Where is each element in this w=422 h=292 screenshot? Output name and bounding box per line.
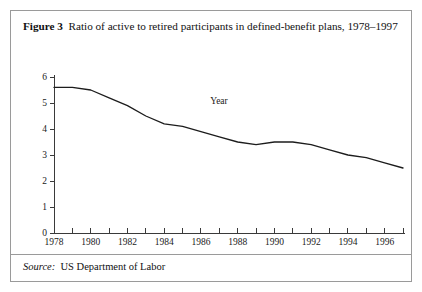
x-tick-label: 1990 bbox=[265, 237, 284, 246]
source-note: Source: US Department of Labor bbox=[23, 261, 165, 272]
y-tick-label: 5 bbox=[42, 98, 47, 108]
x-axis-title: Year bbox=[210, 96, 228, 106]
x-tick-label: 1980 bbox=[81, 237, 100, 246]
x-tick-label: 1982 bbox=[118, 237, 137, 246]
data-series-line bbox=[54, 87, 403, 168]
x-tick-label: 1988 bbox=[228, 237, 247, 246]
figure-caption-text: Ratio of active to retired participants … bbox=[68, 20, 397, 32]
figure-container: Figure 3 Ratio of active to retired part… bbox=[10, 10, 412, 282]
chart-plot-area: 0123456 19781980198219841986198819901992… bbox=[11, 56, 413, 246]
y-tick-label: 1 bbox=[42, 202, 47, 212]
y-tick-label: 6 bbox=[42, 72, 47, 82]
x-tick-label: 1978 bbox=[45, 237, 64, 246]
x-tick-label: 1984 bbox=[155, 237, 174, 246]
x-tick-label: 1996 bbox=[375, 237, 394, 246]
source-text: US Department of Labor bbox=[61, 261, 166, 272]
x-tick-label: 1992 bbox=[302, 237, 321, 246]
source-label: Source: bbox=[23, 261, 55, 272]
y-tick-label: 4 bbox=[42, 124, 47, 134]
y-tick-label: 2 bbox=[42, 176, 47, 186]
source-divider bbox=[11, 254, 411, 255]
y-axis: 0123456 bbox=[42, 72, 54, 238]
x-axis: 1978198019821984198619881990199219941996 bbox=[45, 228, 406, 246]
figure-caption: Figure 3 Ratio of active to retired part… bbox=[23, 19, 401, 34]
y-tick-label: 3 bbox=[42, 150, 47, 160]
x-tick-label: 1986 bbox=[191, 237, 210, 246]
figure-label: Figure 3 bbox=[23, 20, 63, 32]
x-tick-label: 1994 bbox=[338, 237, 357, 246]
line-chart: 0123456 19781980198219841986198819901992… bbox=[11, 56, 413, 246]
